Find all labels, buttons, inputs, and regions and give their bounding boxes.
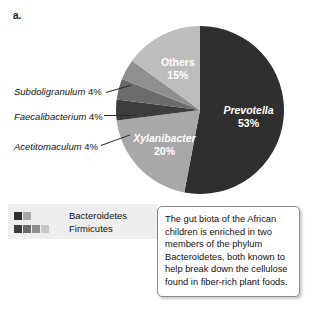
legend-swatch: [14, 212, 22, 220]
callout-acetitomaculum: Acetitomaculum 4%: [14, 141, 98, 152]
pie-label-pct-xylanibacter: 20%: [154, 145, 176, 157]
callout-pct: 4%: [88, 86, 102, 97]
panel-letter: a.: [13, 10, 21, 21]
legend-swatch: [23, 212, 31, 220]
legend-label-firmicutes: Firmicutes: [69, 223, 113, 234]
callout-name: Acetitomaculum: [14, 141, 82, 152]
callout-pct: 4%: [89, 111, 103, 122]
pie-label-pct-prevotella: 53%: [238, 117, 260, 129]
pie-label-name-xylanibacter: Xylanibacter: [132, 132, 196, 144]
pie-chart: Prevotella53%Xylanibacter20%Others15%: [116, 26, 284, 194]
callout-name: Faecalibacterium: [14, 111, 86, 122]
callout-subdoligranulum: Subdoligranulum 4%: [14, 86, 102, 97]
caption-box: The gut biota of the African children is…: [157, 206, 300, 297]
caption-text: The gut biota of the African children is…: [165, 213, 292, 289]
pie-chart-svg: Prevotella53%Xylanibacter20%Others15%: [116, 26, 284, 194]
legend: Bacteroidetes Firmicutes: [8, 204, 158, 239]
legend-swatch: [41, 225, 49, 233]
callout-name: Subdoligranulum: [14, 86, 85, 97]
callout-pct: 4%: [84, 141, 98, 152]
legend-swatch: [32, 225, 40, 233]
legend-swatch: [14, 225, 22, 233]
legend-label-bacteroidetes: Bacteroidetes: [69, 210, 127, 221]
legend-swatch: [23, 225, 31, 233]
pie-label-pct-others: 15%: [167, 69, 189, 81]
legend-item-firmicutes: Firmicutes: [14, 223, 113, 234]
leader-line-faecalibacterium: [104, 115, 136, 116]
callout-faecalibacterium: Faecalibacterium 4%: [14, 111, 103, 122]
pie-label-name-prevotella: Prevotella: [223, 104, 273, 116]
legend-swatches-firmicutes: [14, 225, 61, 233]
pie-label-name-others: Others: [161, 56, 195, 68]
legend-item-bacteroidetes: Bacteroidetes: [14, 210, 127, 221]
legend-swatches-bacteroidetes: [14, 212, 61, 220]
figure-panel: a. Prevotella53%Xylanibacter20%Others15%…: [0, 0, 315, 311]
